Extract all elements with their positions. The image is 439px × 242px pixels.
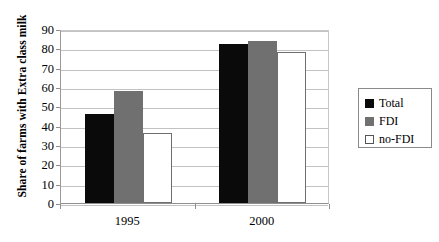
y-tick-label: 90 — [4, 24, 60, 37]
x-tick-label-1995: 1995 — [87, 214, 167, 229]
y-tick-label: 40 — [4, 120, 60, 133]
x-tick-mark — [60, 204, 61, 209]
gridline — [61, 50, 328, 51]
bar-fdi-1995 — [114, 91, 143, 203]
legend-item-no-fdi: no-FDI — [365, 130, 431, 148]
gridline — [61, 31, 328, 32]
x-tick-mark — [195, 204, 196, 209]
legend-label: no-FDI — [379, 133, 414, 145]
y-tick-label: 50 — [4, 101, 60, 114]
bar-total-2000 — [219, 44, 248, 203]
bar-total-1995 — [85, 114, 114, 203]
bar-no-fdi-2000 — [277, 52, 306, 203]
legend-swatch-icon — [365, 99, 374, 108]
legend-label: Total — [379, 97, 404, 109]
y-tick-label: 10 — [4, 178, 60, 191]
y-tick-label: 0 — [4, 198, 60, 211]
legend-item-fdi: FDI — [365, 112, 431, 130]
y-tick-label: 80 — [4, 43, 60, 56]
bar-no-fdi-1995 — [143, 133, 172, 203]
legend-label: FDI — [379, 115, 398, 127]
y-tick-label: 20 — [4, 159, 60, 172]
x-axis: 19952000 — [60, 204, 329, 238]
y-axis-ticks: 0102030405060708090 — [0, 30, 60, 204]
bar-fdi-2000 — [248, 41, 277, 203]
x-tick-label-2000: 2000 — [222, 214, 302, 229]
y-tick-label: 60 — [4, 82, 60, 95]
bar-chart: Share of farms with Extra class milk 010… — [0, 0, 439, 242]
y-tick-label: 70 — [4, 62, 60, 75]
plot-area — [60, 30, 329, 204]
legend-swatch-icon — [365, 117, 374, 126]
legend-item-total: Total — [365, 94, 431, 112]
y-tick-label: 30 — [4, 140, 60, 153]
legend-swatch-icon — [365, 135, 374, 144]
x-tick-mark — [329, 204, 330, 209]
chart-legend: TotalFDIno-FDI — [358, 88, 432, 148]
